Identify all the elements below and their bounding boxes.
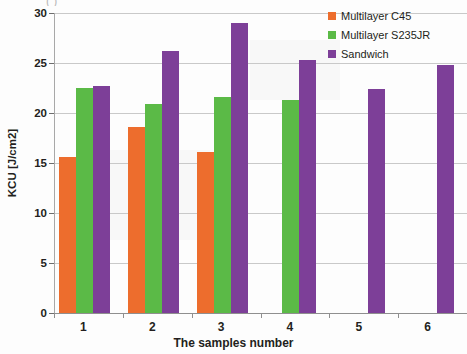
- y-tick-label: 0: [17, 307, 47, 319]
- x-tick-mark: [54, 313, 55, 318]
- x-tick-mark: [192, 313, 193, 318]
- bar: [231, 23, 248, 313]
- x-axis-title: The samples number: [0, 336, 467, 350]
- y-tick-label: 10: [17, 207, 47, 219]
- bar: [282, 100, 299, 313]
- bar: [197, 152, 214, 313]
- bar: [299, 60, 316, 313]
- y-tick-mark: [49, 213, 54, 214]
- bar: [437, 65, 454, 313]
- legend-item[interactable]: Multilayer C45: [328, 10, 430, 22]
- bar: [214, 97, 231, 313]
- bar-chart: ( ) KCU [J/cm2] 051015202530 123456 The …: [0, 0, 467, 354]
- legend-item[interactable]: Multilayer S235JR: [328, 29, 430, 41]
- x-tick-label: 1: [63, 320, 103, 334]
- x-tick-label: 4: [270, 320, 310, 334]
- x-tick-label: 6: [408, 320, 448, 334]
- y-tick-label: 20: [17, 107, 47, 119]
- y-tick-mark: [49, 63, 54, 64]
- legend-label: Sandwich: [341, 48, 389, 60]
- bar: [162, 51, 179, 313]
- y-tick-label: 15: [17, 157, 47, 169]
- x-tick-label: 5: [339, 320, 379, 334]
- y-tick-mark: [49, 163, 54, 164]
- y-tick-mark: [49, 13, 54, 14]
- y-tick-mark: [49, 263, 54, 264]
- x-tick-mark: [261, 313, 262, 318]
- x-tick-mark: [329, 313, 330, 318]
- legend-item[interactable]: Sandwich: [328, 48, 430, 60]
- bar: [145, 104, 162, 313]
- legend-swatch-icon: [328, 50, 336, 58]
- y-tick-label: 5: [17, 257, 47, 269]
- y-axis-title-container: KCU [J/cm2]: [14, 13, 15, 313]
- y-tick-label: 30: [17, 7, 47, 19]
- x-tick-label: 2: [132, 320, 172, 334]
- x-tick-mark: [123, 313, 124, 318]
- legend-label: Multilayer S235JR: [341, 29, 430, 41]
- bar: [76, 88, 93, 313]
- y-tick-label: 25: [17, 57, 47, 69]
- x-tick-mark: [398, 313, 399, 318]
- chart-legend: Multilayer C45Multilayer S235JRSandwich: [328, 10, 430, 60]
- bar: [368, 89, 385, 313]
- bar: [93, 86, 110, 313]
- x-tick-label: 3: [201, 320, 241, 334]
- y-tick-mark: [49, 113, 54, 114]
- legend-label: Multilayer C45: [341, 10, 411, 22]
- legend-swatch-icon: [328, 12, 336, 20]
- legend-swatch-icon: [328, 31, 336, 39]
- bar: [59, 157, 76, 313]
- bar: [128, 127, 145, 313]
- cropped-caption-artifact: ( ): [46, 0, 246, 6]
